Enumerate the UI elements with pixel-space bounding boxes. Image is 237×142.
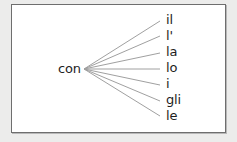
branch-line-le <box>84 69 160 116</box>
article-l-apostrophe: l' <box>166 29 173 43</box>
article-la: la <box>166 45 177 59</box>
root-word: con <box>58 62 81 76</box>
branch-lines <box>12 5 225 132</box>
article-gli: gli <box>166 93 181 107</box>
branch-line-il <box>84 21 160 69</box>
branch-line-la <box>84 53 160 69</box>
article-i: i <box>166 77 169 91</box>
branch-line-i <box>84 69 160 85</box>
article-lo: lo <box>166 61 177 75</box>
article-le: le <box>166 109 177 123</box>
branch-line-gli <box>84 69 160 101</box>
diagram-box: con il l' la lo i gli le <box>11 4 226 133</box>
article-il: il <box>166 13 173 27</box>
branch-line-l <box>84 36 160 69</box>
